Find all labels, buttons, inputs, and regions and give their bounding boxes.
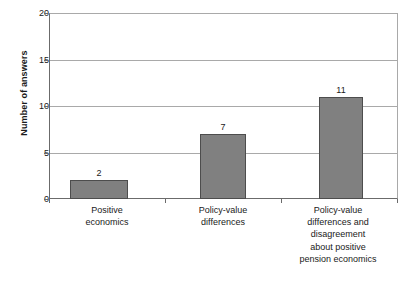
x-axis-label-line: differences and xyxy=(278,216,398,228)
bar-group-policy-value-differences: 7 xyxy=(200,13,246,199)
y-tick-mark-15 xyxy=(44,60,48,61)
x-axis-label-line: disagreement xyxy=(278,228,398,240)
bar-policy-value-differences-and-disagreement[interactable] xyxy=(319,97,363,199)
y-tick-label-15: 15 xyxy=(5,55,49,64)
x-axis-label-line: Policy-value xyxy=(165,204,281,216)
y-tick-label-20: 20 xyxy=(5,9,49,18)
y-tick-mark-0 xyxy=(44,199,48,200)
x-axis-label-positive-economics: Positive economics xyxy=(49,204,165,228)
x-axis-label-line: pension economics xyxy=(278,253,398,265)
bar-positive-economics[interactable] xyxy=(70,180,128,199)
bar-group-positive-economics: 2 xyxy=(70,13,128,199)
y-tick-label-5: 5 xyxy=(5,148,49,157)
x-tick-mark-1 xyxy=(165,199,166,203)
x-axis-label-policy-value-differences: Policy-value differences xyxy=(165,204,281,228)
bar-policy-value-differences[interactable] xyxy=(200,134,246,199)
bar-value-positive-economics: 2 xyxy=(50,168,148,178)
y-tick-label-0: 0 xyxy=(5,195,49,204)
y-tick-mark-10 xyxy=(44,106,48,107)
x-axis-label-line: economics xyxy=(49,216,165,228)
x-tick-mark-2 xyxy=(281,199,282,203)
x-axis-label-line: Positive xyxy=(49,204,165,216)
x-axis-label-policy-value-differences-and-disagreement: Policy-value differences and disagreemen… xyxy=(278,204,398,265)
x-tick-mark-left xyxy=(49,199,50,203)
x-axis-label-line: differences xyxy=(165,216,281,228)
bar-value-policy-value-differences: 7 xyxy=(180,122,266,132)
x-axis-label-line: about positive xyxy=(278,241,398,253)
x-axis-labels: Positive economics Policy-value differen… xyxy=(49,204,398,283)
bar-group-policy-value-differences-and-disagreement: 11 xyxy=(319,13,363,199)
y-tick-mark-5 xyxy=(44,153,48,154)
x-tick-mark-right xyxy=(397,199,398,203)
bar-value-policy-value-differences-and-disagreement: 11 xyxy=(299,85,383,95)
bar-chart: Number of answers 20 15 10 5 0 2 7 11 xyxy=(0,0,411,283)
y-axis-ticks: 20 15 10 5 0 xyxy=(0,13,49,199)
bars-layer: 2 7 11 xyxy=(49,13,398,199)
y-tick-mark-20 xyxy=(44,13,48,14)
y-tick-label-10: 10 xyxy=(5,102,49,111)
x-axis-label-line: Policy-value xyxy=(278,204,398,216)
